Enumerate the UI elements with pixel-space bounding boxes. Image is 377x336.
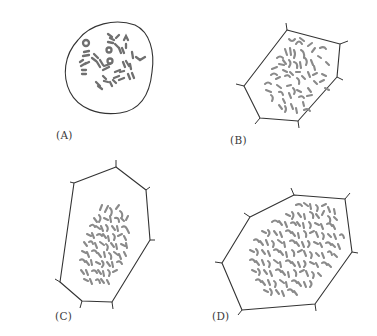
panel-b-cell <box>236 23 348 128</box>
panel-d-label: (D) <box>212 310 230 322</box>
cell-c-membrane <box>60 167 150 302</box>
panel-b-label: (B) <box>230 134 247 146</box>
panel-a-cell <box>65 22 153 114</box>
panel-a-label: (A) <box>56 129 73 141</box>
cell-c-chromosomes <box>80 205 129 284</box>
panel-c-cell <box>55 160 155 309</box>
cell-diagram <box>0 0 377 336</box>
cell-a-chromosomes <box>80 34 145 89</box>
cell-b-chromosomes <box>265 38 329 113</box>
cell-d-chromosomes <box>250 203 344 296</box>
figure-canvas: (A) (B) (C) (D) <box>0 0 377 336</box>
panel-c-label: (C) <box>55 310 72 322</box>
panel-d-cell <box>215 188 358 315</box>
